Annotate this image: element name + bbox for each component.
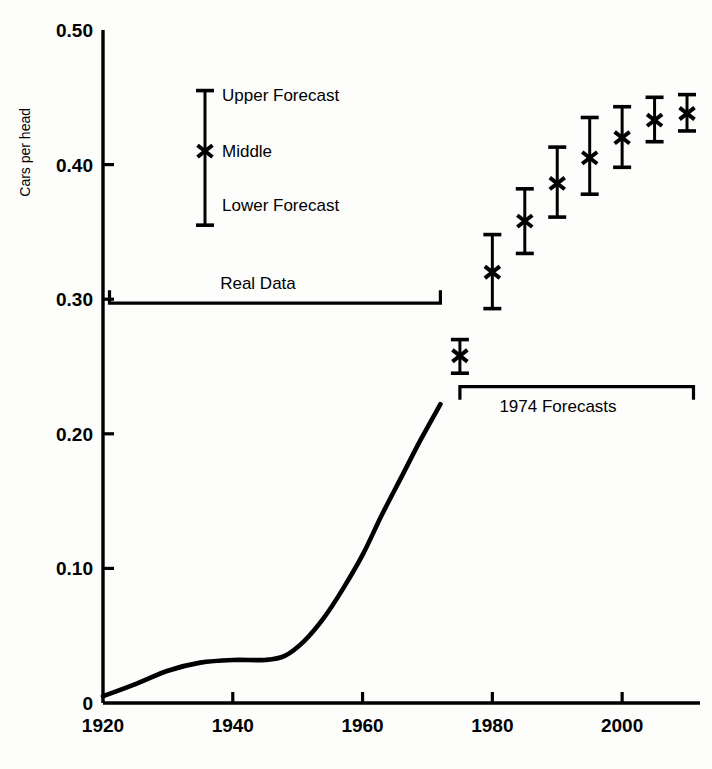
real-data-curve <box>103 404 440 696</box>
x-tick-label-1980: 1980 <box>471 715 513 736</box>
chart-legend <box>196 91 214 226</box>
cars-per-head-chart: 00.100.200.300.400.50 192019401960198020… <box>0 0 712 769</box>
x-tick-label-1960: 1960 <box>341 715 383 736</box>
x-tick-label-1920: 1920 <box>82 715 124 736</box>
y-tick-label-0.30: 0.30 <box>56 289 93 310</box>
error-bar-1980 <box>483 235 501 309</box>
error-bar-1995 <box>581 117 599 194</box>
y-tick-label-0.50: 0.50 <box>56 20 93 41</box>
legend-label-lower-forecast: Lower Forecast <box>222 196 339 215</box>
y-tick-label-0.20: 0.20 <box>56 424 93 445</box>
error-bar-2005 <box>646 97 664 141</box>
error-bar-2000 <box>613 107 631 168</box>
forecast-error-bars <box>451 95 696 374</box>
error-bar-1985 <box>516 189 534 254</box>
x-tick-label-1940: 1940 <box>212 715 254 736</box>
legend-label-upper-forecast: Upper Forecast <box>222 86 339 105</box>
error-bar-2010 <box>678 95 696 131</box>
forecast-bracket-label: 1974 Forecasts <box>499 397 616 416</box>
y-tick-label-0: 0 <box>82 693 93 714</box>
x-axis-tick-labels: 19201940196019802000 <box>82 715 643 736</box>
chart-figure: 00.100.200.300.400.50 192019401960198020… <box>0 0 712 769</box>
error-bar-1975 <box>451 340 469 374</box>
y-tick-label-0.40: 0.40 <box>56 155 93 176</box>
y-axis-title: Cars per head <box>17 108 33 197</box>
legend-label-middle: Middle <box>222 142 272 161</box>
real-data-bracket-label: Real Data <box>220 274 296 293</box>
x-tick-label-2000: 2000 <box>601 715 643 736</box>
error-bar-1990 <box>548 147 566 217</box>
y-tick-label-0.10: 0.10 <box>56 558 93 579</box>
annotation-brackets <box>110 290 694 400</box>
y-axis-tick-labels: 00.100.200.300.400.50 <box>56 20 93 714</box>
